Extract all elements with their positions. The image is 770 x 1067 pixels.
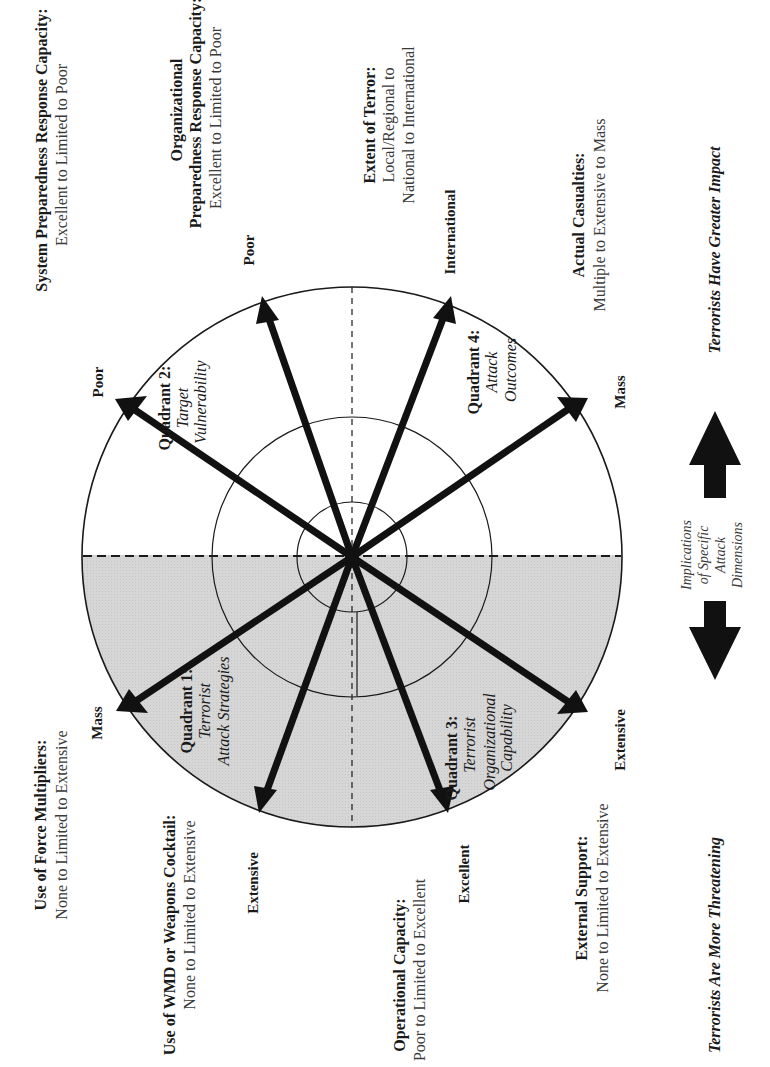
dimension-range: Poor to Limited to Excellent — [411, 878, 428, 1061]
dimension-title-line-2: Preparedness Response Capacity: — [187, 0, 205, 228]
endpoint-label-international: International — [442, 189, 458, 274]
dimension-actual-casualties: Actual Casualties: Multiple to Extensive… — [570, 119, 609, 312]
endpoint-label-mass-casualties: Mass — [612, 375, 628, 408]
dimension-title: Extent of Terror: — [361, 66, 378, 183]
endpoint-label-mass-force: Mass — [89, 706, 105, 739]
legend-implications-line-1: Implications — [679, 519, 694, 591]
quadrant-3-title: Quadrant 3: — [443, 716, 460, 801]
dimension-range: None to Limited to Extensive — [594, 803, 611, 992]
endpoint-label-poor-system: Poor — [90, 366, 106, 397]
legend: Terrorists Have Greater Impact Terrorist… — [679, 146, 745, 1053]
dimension-system-preparedness: System Preparedness Response Capacity: E… — [33, 8, 70, 291]
dimension-range-line-1: Local/Regional to — [380, 67, 398, 182]
dimension-wmd-weapons-cocktail: Use of WMD or Weapons Cocktail: None to … — [161, 815, 198, 1055]
quadrant-4-subtitle-2: Outcomes — [502, 338, 519, 402]
dimension-title: External Support: — [573, 836, 591, 961]
arrow-up-icon — [689, 411, 741, 498]
arrow-down-icon — [689, 601, 741, 680]
quadrant-3-subtitle-3: Capability — [498, 703, 516, 771]
dimension-organizational-preparedness: Organizational Preparedness Response Cap… — [168, 0, 224, 228]
dimension-range: Excellent to Limited to Poor — [207, 26, 224, 209]
quadrant-2-subtitle-2: Vulnerability — [192, 359, 210, 443]
endpoint-label-excellent: Excellent — [456, 844, 472, 903]
quadrant-3-subtitle-2: Organizational — [481, 693, 499, 791]
hub — [345, 550, 359, 564]
quadrant-4-title: Quadrant 4: — [465, 330, 482, 415]
endpoint-label-poor-organizational: Poor — [241, 234, 257, 265]
dimension-force-multipliers: Use of Force Multipliers: None to Limite… — [32, 730, 70, 919]
quadrant-2-title: Quadrant 2: — [156, 366, 173, 451]
dimension-title: Use of Force Multipliers: — [32, 740, 50, 911]
quadrant-1-subtitle-1: Terrorist — [196, 683, 213, 739]
dimension-title: Use of WMD or Weapons Cocktail: — [161, 815, 179, 1055]
legend-more-threatening: Terrorists Are More Threatening — [706, 837, 724, 1053]
quadrant-1-subtitle-2: Attack Strategies — [215, 657, 233, 767]
dimension-range: None to Limited to Extensive — [53, 730, 70, 919]
dimension-range: None to Limited to Extensive — [181, 820, 198, 1009]
dimension-range-line-2: National to International — [400, 46, 417, 204]
quadrant-2-subtitle-1: Target — [174, 387, 192, 428]
quadrant-4-subtitle-1: Attack — [483, 351, 500, 394]
legend-implications-line-4: Dimensions — [730, 521, 745, 589]
legend-implications-line-2: of Specific — [696, 525, 711, 584]
endpoint-label-extensive-wmd: Extensive — [245, 852, 261, 914]
quadrant-1-title: Quadrant 1: — [178, 669, 195, 754]
dimension-range: Excellent to Limited to Poor — [53, 63, 70, 246]
dimension-title: Operational Capacity: — [391, 898, 409, 1051]
dimension-title-line-1: Organizational — [168, 58, 186, 162]
quadrant-3-subtitle-1: Terrorist — [461, 717, 478, 773]
dimension-title: System Preparedness Response Capacity: — [33, 8, 51, 291]
dimension-range: Multiple to Extensive to Mass — [591, 119, 609, 312]
legend-greater-impact: Terrorists Have Greater Impact — [706, 146, 724, 354]
terrorism-attack-dimensions-diagram: Quadrant 2: Target Vulnerability Quadran… — [0, 0, 770, 1067]
dimension-external-support: External Support: None to Limited to Ext… — [573, 803, 611, 992]
endpoint-label-extensive-support: Extensive — [612, 709, 628, 771]
dimension-operational-capacity: Operational Capacity: Poor to Limited to… — [391, 878, 428, 1061]
dimension-extent-of-terror: Extent of Terror: Local/Regional to Nati… — [361, 46, 417, 204]
legend-implications-line-3: Attack — [713, 536, 728, 574]
dimension-title: Actual Casualties: — [570, 153, 587, 278]
